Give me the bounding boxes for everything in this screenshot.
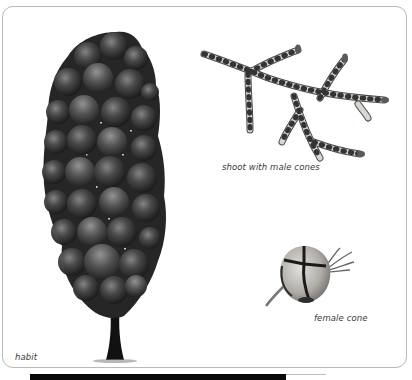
page-bottom-bar [30,374,286,380]
female-cone-illustration [260,240,356,312]
page-bottom-rule [286,374,326,375]
habit-label: habit [15,352,37,362]
female-cone-label: female cone [314,313,368,323]
shoot-with-male-cones-illustration [198,42,394,170]
tree-habit-illustration [38,26,178,366]
shoot-with-male-cones-label: shoot with male cones [222,162,320,172]
